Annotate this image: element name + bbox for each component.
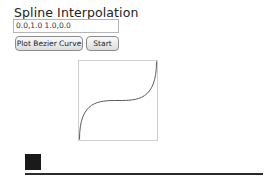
- control-points-input[interactable]: [13, 19, 119, 33]
- bezier-curve-plot: [79, 61, 157, 140]
- animated-square: [25, 154, 41, 170]
- start-button[interactable]: Start: [86, 36, 119, 51]
- page-title: Spline Interpolation: [14, 5, 138, 20]
- plot-bezier-curve-button[interactable]: Plot Bezier Curve: [15, 36, 83, 51]
- bezier-curve-path: [79, 61, 156, 139]
- animation-track-line: [25, 173, 263, 175]
- curve-canvas: [78, 60, 158, 141]
